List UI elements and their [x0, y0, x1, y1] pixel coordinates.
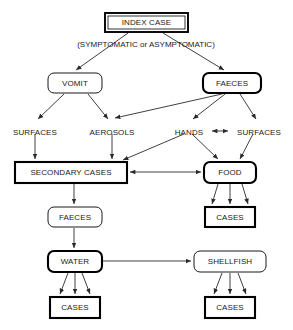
node-shellfish: SHELLFISH [194, 251, 266, 272]
node-faeces_top: FAECES [203, 73, 261, 93]
edge-water-to-cases_water [82, 273, 90, 294]
edge-faeces_top-to-hands [193, 94, 225, 119]
edge-faeces_top-to-surfaces_right [240, 94, 256, 119]
node-label-food: FOOD [218, 168, 242, 177]
node-vomit: VOMIT [48, 73, 102, 93]
edge-index_case-to-vomit [76, 33, 128, 70]
node-aerosols: AEROSOLS [90, 128, 135, 137]
node-label-cases_shell: CASES [216, 303, 244, 312]
node-food: FOOD [204, 162, 256, 183]
edge-hands-to-secondary [123, 134, 184, 160]
node-label-water: WATER [61, 257, 90, 266]
node-cases_water: CASES [50, 297, 100, 318]
node-label-hands: HANDS [175, 128, 204, 137]
edge-water-to-cases_water [60, 273, 68, 294]
node-label-cases_water: CASES [61, 303, 89, 312]
node-cases_food: CASES [205, 207, 255, 227]
edge-shellfish-to-cases_shell [214, 273, 222, 294]
edge-faeces_top-to-aerosols [115, 94, 222, 118]
node-secondary: SECONDARY CASES [15, 162, 127, 183]
edge-surfaces_right-to-food [240, 134, 253, 159]
node-cases_shell: CASES [205, 297, 255, 318]
node-layer: INDEX CASEVOMITFAECESSURFACESAEROSOLSHAN… [13, 13, 281, 318]
node-index_case: INDEX CASE [105, 13, 188, 32]
node-label-index_case: INDEX CASE [122, 18, 171, 27]
node-label-aerosols: AEROSOLS [90, 128, 135, 137]
edge-vomit-to-surfaces_left [38, 94, 64, 119]
node-hands: HANDS [175, 128, 204, 137]
edge-shellfish-to-cases_shell [238, 273, 246, 294]
node-label-secondary: SECONDARY CASES [30, 168, 111, 177]
subtitle-label: (SYMPTOMATIC or ASYMPTOMATIC) [77, 40, 215, 49]
node-label-surfaces_right: SURFACES [237, 128, 281, 137]
node-surfaces_left: SURFACES [13, 128, 57, 137]
diagram-canvas: INDEX CASEVOMITFAECESSURFACESAEROSOLSHAN… [0, 0, 293, 330]
node-faeces_mid: FAECES [48, 207, 102, 227]
edge-hands-to-food [192, 134, 218, 159]
edge-vomit-to-aerosols [88, 94, 108, 119]
edge-food-to-cases_food [242, 184, 248, 204]
node-label-shellfish: SHELLFISH [208, 257, 253, 266]
node-label-faeces_mid: FAECES [59, 213, 91, 222]
node-label-surfaces_left: SURFACES [13, 128, 57, 137]
node-label-cases_food: CASES [216, 213, 244, 222]
node-water: WATER [48, 251, 102, 272]
edge-index_case-to-faeces_top [163, 33, 224, 70]
node-label-vomit: VOMIT [62, 79, 88, 88]
node-surfaces_right: SURFACES [237, 128, 281, 137]
edge-food-to-cases_food [212, 184, 218, 204]
node-label-faeces_top: FAECES [216, 79, 248, 88]
transmission-flow-diagram: INDEX CASEVOMITFAECESSURFACESAEROSOLSHAN… [0, 0, 293, 330]
